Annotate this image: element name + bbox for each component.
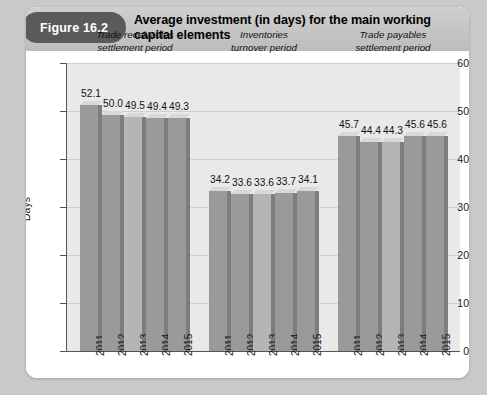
bar[interactable]: 50.0 (102, 111, 124, 351)
bar-value-label: 50.0 (103, 98, 123, 109)
bar-front-face (360, 142, 378, 351)
bar[interactable]: 44.4 (360, 138, 382, 351)
bar-front-face (426, 136, 444, 351)
bar-value-label: 33.6 (232, 177, 252, 188)
bar[interactable]: 49.3 (168, 114, 190, 351)
bar[interactable]: 45.6 (404, 132, 426, 351)
figure-card: Figure 16.2 Average investment (in days)… (26, 7, 469, 378)
bar[interactable]: 45.6 (426, 132, 448, 351)
y-axis-title: Days (26, 197, 32, 221)
x-tick-label: 2015 (312, 334, 323, 356)
bar[interactable]: 44.3 (382, 138, 404, 351)
bar-value-label: 49.3 (169, 101, 189, 112)
x-tick-label: 2015 (441, 334, 452, 356)
bar-side-face (444, 136, 448, 351)
bar-front-face (168, 118, 186, 351)
bar-front-face (253, 194, 271, 351)
chart-body: Days 0102030405060 Trade receivables set… (26, 51, 469, 378)
bar[interactable]: 52.1 (80, 101, 102, 351)
bar-value-label: 33.6 (254, 177, 274, 188)
bar-side-face (315, 191, 319, 351)
y-axis-line (66, 63, 67, 352)
bar-value-label: 45.6 (427, 119, 447, 130)
bar-front-face (209, 191, 227, 351)
bar-value-label: 34.2 (210, 174, 230, 185)
bar-group-header: Trade payables settlement period (316, 29, 469, 54)
bar-value-label: 45.6 (405, 119, 425, 130)
bar[interactable]: 49.5 (124, 113, 146, 351)
bar[interactable]: 33.6 (231, 190, 253, 351)
bar-value-label: 44.3 (383, 125, 403, 136)
bar-front-face (146, 118, 164, 351)
x-tick-label: 2015 (183, 334, 194, 356)
y-tick-mark (60, 63, 66, 64)
y-tick-mark (60, 207, 66, 208)
bar-value-label: 49.5 (125, 100, 145, 111)
bar[interactable]: 33.6 (253, 190, 275, 351)
bar-value-label: 49.4 (147, 101, 167, 112)
bar-value-label: 45.7 (339, 119, 359, 130)
y-tick-mark (60, 159, 66, 160)
bar-value-label: 44.4 (361, 125, 381, 136)
bar[interactable]: 45.7 (338, 132, 360, 351)
y-tick-mark (60, 303, 66, 304)
y-tick-label: 60 (441, 57, 469, 69)
bar-front-face (404, 136, 422, 351)
bar-side-face (186, 118, 190, 351)
bar-front-face (124, 117, 142, 351)
bar-front-face (102, 115, 120, 351)
gridline (66, 63, 460, 64)
y-tick-mark (60, 255, 66, 256)
bar[interactable]: 34.1 (297, 187, 319, 351)
bar-value-label: 52.1 (81, 88, 101, 99)
bar-front-face (338, 136, 356, 351)
bar[interactable]: 34.2 (209, 187, 231, 351)
bar-front-face (231, 194, 249, 351)
bar-front-face (382, 142, 400, 351)
bar-value-label: 33.7 (276, 176, 296, 187)
bar[interactable]: 49.4 (146, 114, 168, 351)
y-tick-mark (60, 111, 66, 112)
y-tick-label: 50 (441, 105, 469, 117)
bar-front-face (297, 191, 315, 351)
bar-front-face (80, 105, 98, 351)
y-tick-mark (60, 351, 66, 352)
bar[interactable]: 33.7 (275, 189, 297, 351)
bar-value-label: 34.1 (298, 174, 318, 185)
bar-front-face (275, 193, 293, 351)
